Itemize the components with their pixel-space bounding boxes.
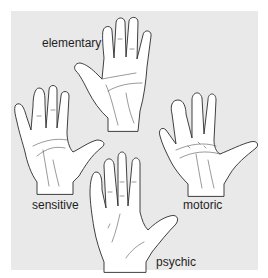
- motoric-label: motoric: [183, 199, 222, 211]
- elementary-label: elementary: [42, 37, 101, 49]
- sensitive-label: sensitive: [32, 199, 79, 211]
- psychic-label: psychic: [156, 256, 196, 268]
